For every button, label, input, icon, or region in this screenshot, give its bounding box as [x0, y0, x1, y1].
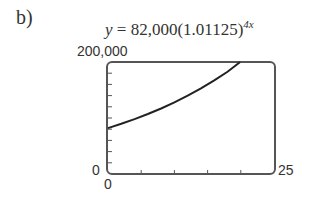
graph-frame — [107, 62, 275, 174]
exponential-curve — [108, 62, 240, 128]
y-axis-ticks — [108, 73, 112, 163]
graph-window — [0, 0, 309, 197]
